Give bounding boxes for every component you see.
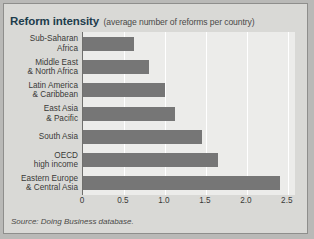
category-label: South Asia (39, 132, 78, 141)
bar (83, 153, 218, 167)
x-tick-label: 2.0 (240, 196, 251, 205)
chart-title-subtitle: (average number of reforms per country) (104, 17, 255, 27)
x-tick-label: 0.5 (117, 196, 128, 205)
x-tick-label: 1.0 (158, 196, 169, 205)
category-label: Eastern Europe & Central Asia (21, 174, 78, 192)
gridline (288, 32, 289, 195)
bar (83, 37, 134, 51)
category-axis: Sub-Saharan AfricaMiddle East & North Af… (10, 32, 82, 195)
chart-title: Reform intensity (average number of refo… (10, 11, 301, 27)
bar (83, 130, 202, 144)
source-note: Source: Doing Business database. (11, 217, 134, 226)
category-label: Sub-Saharan Africa (30, 34, 78, 52)
x-axis: 00.51.01.52.02.5 (82, 195, 295, 209)
gridline (247, 32, 248, 195)
plot-container: Sub-Saharan AfricaMiddle East & North Af… (10, 32, 303, 210)
chart-figure: Reform intensity (average number of refo… (3, 3, 308, 234)
category-label: Middle East & North Africa (27, 58, 78, 76)
x-tick-label: 0 (80, 196, 85, 205)
x-tick-label: 1.5 (199, 196, 210, 205)
category-label: OECD high income (34, 151, 78, 169)
category-label: East Asia & Pacific (44, 104, 78, 122)
plot-area (82, 32, 295, 195)
bar (83, 176, 280, 190)
x-tick-label: 2.5 (281, 196, 292, 205)
bar (83, 83, 165, 97)
category-label: Latin America & Caribbean (28, 81, 78, 99)
bar (83, 107, 175, 121)
bar (83, 60, 149, 74)
chart-title-main: Reform intensity (10, 15, 99, 27)
gridline (206, 32, 207, 195)
